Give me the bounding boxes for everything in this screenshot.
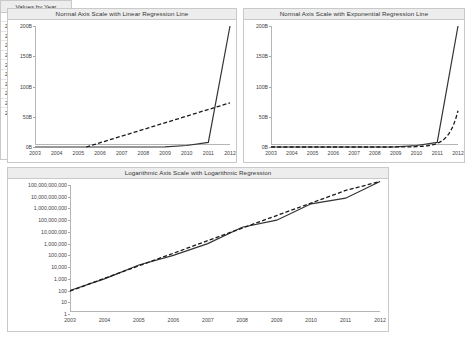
chart-title-linear: Normal Axis Scale with Linear Regression… bbox=[8, 9, 236, 20]
plot-lines-linear bbox=[8, 20, 238, 165]
plot-lines-logarithmic bbox=[8, 179, 390, 334]
chart-panel-exponential: Normal Axis Scale with Exponential Regre… bbox=[243, 8, 465, 163]
chart-title-exponential: Normal Axis Scale with Exponential Regre… bbox=[244, 9, 464, 20]
plot-lines-exponential bbox=[244, 20, 466, 165]
chart-panel-logarithmic: Logarithmic Axis Scale with Logarithmic … bbox=[7, 167, 389, 332]
chart-panel-linear: Normal Axis Scale with Linear Regression… bbox=[7, 8, 237, 163]
chart-title-logarithmic: Logarithmic Axis Scale with Logarithmic … bbox=[8, 168, 388, 179]
plot-wrap-exponential: 200B150B100B50B0B 2003200420052006200720… bbox=[244, 20, 464, 163]
plot-wrap-logarithmic: 100,000,000,00010,000,000,0001,000,000,0… bbox=[8, 179, 388, 332]
plot-wrap-linear: 200B150B100B50B0B 2003200420052006200720… bbox=[8, 20, 236, 163]
